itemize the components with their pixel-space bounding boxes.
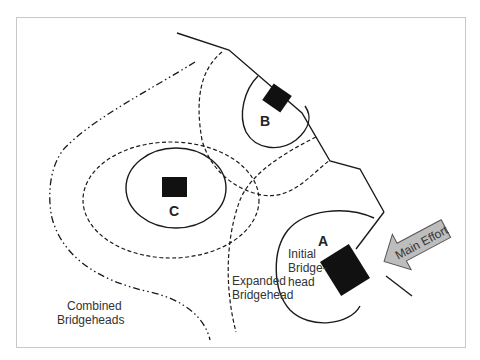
label-expanded-2: Bridgehead — [232, 288, 293, 302]
label-expanded-1: Expanded — [232, 274, 286, 288]
label-combined-2: Bridgeheads — [57, 313, 124, 327]
label-objective-b: B — [260, 113, 270, 129]
label-initial-1: Initial — [288, 247, 316, 261]
label-objective-a: A — [318, 233, 328, 249]
label-objective-c: C — [169, 203, 179, 219]
objective-c-marker — [162, 177, 187, 197]
bridgehead-diagram: B C A Initial Bridge- head Expanded Brid… — [0, 0, 480, 360]
label-initial-2: Bridge- — [288, 261, 327, 275]
label-initial-3: head — [288, 275, 315, 289]
label-combined-1: Combined — [67, 299, 122, 313]
